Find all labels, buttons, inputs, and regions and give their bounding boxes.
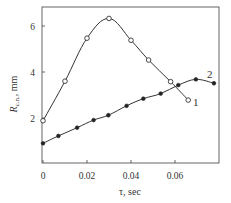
x-axis-label: τ, sec xyxy=(119,186,141,197)
svg-text:Rc.n., mm: Rc.n., mm xyxy=(8,75,21,113)
series-1-point xyxy=(63,79,68,84)
y-axis-label: Rc.n., mm xyxy=(8,75,21,113)
y-axis-label-subscript: c.n. xyxy=(13,96,21,106)
series-2-point xyxy=(159,92,163,96)
series-1-point xyxy=(41,118,46,123)
series-2-point xyxy=(125,104,129,108)
series-1-point xyxy=(107,16,112,21)
series-2-point xyxy=(75,126,79,130)
x-tick-label: 0 xyxy=(41,171,46,181)
y-tick-label: 4 xyxy=(30,68,35,78)
series-1-line xyxy=(43,18,188,120)
series-2-point xyxy=(106,113,110,117)
line-chart: 00.020.040.06246 1 2 τ, sec Rc.n., mm xyxy=(0,0,231,203)
series-2-point xyxy=(41,141,45,145)
y-tick-label: 2 xyxy=(30,114,35,124)
series-1-point xyxy=(146,58,151,63)
series-2-line xyxy=(43,79,214,143)
series-2-point xyxy=(194,77,198,81)
y-axis-label-symbol: R xyxy=(8,106,19,113)
x-tick-label: 0.02 xyxy=(79,171,96,181)
series-2-point xyxy=(212,81,216,85)
plot-frame xyxy=(42,7,219,163)
axis-ticks: 00.020.040.06246 xyxy=(30,22,183,182)
series-1-point xyxy=(85,36,90,41)
y-tick-label: 6 xyxy=(30,22,35,32)
x-tick-label: 0.06 xyxy=(167,171,184,181)
series-1-point xyxy=(168,79,173,84)
series-curves xyxy=(43,18,214,143)
series-2-point xyxy=(92,118,96,122)
series-2-point xyxy=(141,97,145,101)
x-tick-label: 0.04 xyxy=(123,171,140,181)
series-2-label: 2 xyxy=(207,68,213,80)
series-1-point xyxy=(129,38,134,43)
series-1-point xyxy=(186,98,191,103)
series-1-label: 1 xyxy=(193,96,199,108)
y-axis-label-unit: , mm xyxy=(8,75,19,96)
series-2-point xyxy=(176,83,180,87)
series-2-point xyxy=(57,134,61,138)
